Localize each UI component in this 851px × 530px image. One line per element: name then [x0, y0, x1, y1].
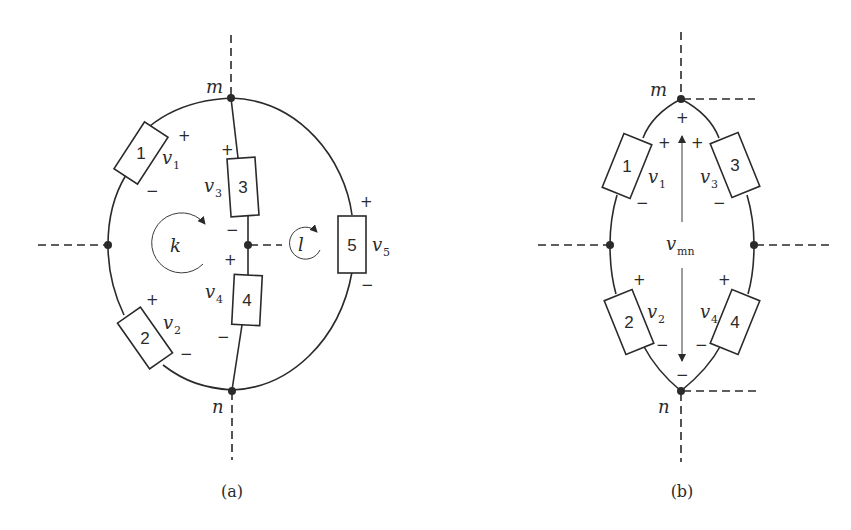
svg-text:2: 2: [658, 313, 665, 326]
element-2-label: 2: [624, 313, 633, 332]
svg-text:1: 1: [659, 178, 666, 191]
element-5-label: 5: [347, 236, 356, 255]
vmn-plus: +: [676, 109, 689, 127]
v3-minus: −: [226, 221, 239, 239]
loop-k-label: k: [170, 235, 181, 256]
element-2: 2: [604, 289, 654, 354]
svg-text:1: 1: [173, 159, 180, 172]
svg-text:v: v: [163, 312, 173, 333]
wire-elem4-to-n: [232, 325, 242, 390]
element-3-label: 3: [730, 156, 739, 175]
svg-text:v: v: [700, 301, 710, 322]
v2-plus: +: [633, 271, 646, 289]
loop-l-label: l: [298, 234, 304, 255]
v1-plus: +: [178, 127, 191, 145]
node-left: [104, 241, 112, 249]
svg-text:v: v: [666, 233, 676, 254]
element-2-label: 2: [140, 329, 149, 348]
svg-text:v: v: [204, 175, 214, 196]
vmn-minus: −: [676, 366, 689, 384]
element-1: 1: [114, 122, 168, 184]
v1-minus: −: [146, 182, 159, 200]
svg-text:mn: mn: [677, 245, 695, 258]
element-3: 3: [227, 157, 259, 217]
svg-text:v: v: [647, 301, 657, 322]
v3-minus: −: [713, 194, 726, 212]
v5-label: v 5: [372, 234, 390, 259]
svg-text:3: 3: [711, 178, 718, 191]
wire-right-node-to-elem4: [748, 245, 754, 294]
element-1-label: 1: [136, 144, 145, 163]
svg-text:v: v: [372, 234, 382, 255]
element-4: 4: [232, 274, 263, 325]
node-n-label: n: [212, 396, 224, 417]
svg-text:3: 3: [215, 187, 222, 200]
v4-label: v 4: [700, 301, 718, 326]
vmn-label: v mn: [666, 233, 695, 258]
svg-text:4: 4: [216, 293, 223, 306]
node-m-label: m: [206, 76, 223, 97]
wire-elem3-to-right-node: [747, 195, 754, 245]
element-4-label: 4: [242, 291, 251, 310]
v4-plus: +: [718, 271, 731, 289]
element-1-label: 1: [622, 157, 631, 176]
v5-plus: +: [360, 193, 373, 211]
v3-label: v 3: [204, 175, 222, 200]
v2-plus: +: [146, 291, 159, 309]
loop-l-arrow-icon: [290, 227, 320, 259]
v1-label: v 1: [162, 147, 180, 172]
element-4-label: 4: [730, 313, 739, 332]
v3-label: v 3: [700, 166, 718, 191]
wire-left-node-to-elem2: [610, 245, 616, 294]
v3-plus: +: [221, 141, 234, 159]
wire-elem1-to-left-node: [610, 195, 617, 245]
node-right: [750, 241, 758, 249]
v2-minus: −: [180, 345, 193, 363]
v5-minus: −: [361, 276, 374, 294]
v1-label: v 1: [648, 166, 666, 191]
caption-a: (a): [221, 482, 243, 501]
v2-label: v 2: [647, 301, 665, 326]
node-left: [606, 241, 614, 249]
svg-text:2: 2: [174, 324, 181, 337]
v1-minus: −: [636, 194, 649, 212]
svg-text:v: v: [700, 166, 710, 187]
svg-text:v: v: [205, 281, 215, 302]
svg-text:v: v: [648, 166, 658, 187]
node-n: [677, 387, 685, 395]
svg-text:v: v: [162, 147, 172, 168]
v4-plus: +: [224, 251, 237, 269]
wire-elem1-to-left-node: [108, 175, 126, 245]
element-5: 5: [338, 216, 366, 273]
node-n-label: n: [658, 396, 670, 417]
v3-plus: +: [691, 134, 704, 152]
svg-text:5: 5: [383, 246, 390, 259]
circuit-figure: 1 2 3 4 5 m n v 1: [0, 0, 851, 530]
node-m-label: m: [650, 79, 667, 100]
v2-minus: −: [656, 336, 669, 354]
v4-label: v 4: [205, 281, 223, 306]
caption-b: (b): [671, 482, 694, 501]
node-m: [677, 95, 685, 103]
element-3-label: 3: [238, 178, 247, 197]
node-n: [228, 387, 236, 395]
v4-minus: −: [695, 336, 708, 354]
node-middle: [244, 241, 252, 249]
v4-minus: −: [217, 328, 230, 346]
node-m: [227, 94, 235, 102]
figure-b: 1 2 3 4 m n v mn + − v: [538, 32, 829, 501]
wire-left-node-to-elem2: [108, 245, 124, 315]
wire-elem2-to-n: [163, 365, 232, 390]
svg-text:4: 4: [711, 313, 718, 326]
element-1: 1: [602, 133, 652, 198]
v1-plus: +: [658, 134, 671, 152]
figure-a: 1 2 3 4 5 m n v 1: [38, 35, 390, 501]
v2-label: v 2: [163, 312, 181, 337]
